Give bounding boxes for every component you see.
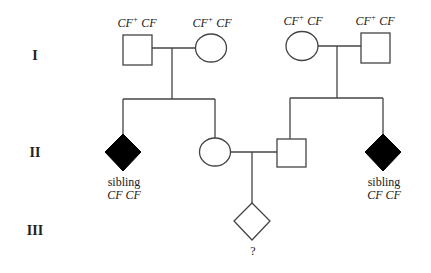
gen2-mother-circle: [200, 138, 231, 166]
gen2-left-sibling-affected-diamond: [105, 134, 141, 171]
generation-label-i: I: [15, 48, 55, 64]
label-gen3-child-unknown: ?: [250, 245, 255, 258]
gen1-right-father-square: [361, 33, 390, 63]
label-gen2-left-sibling: sibling CF CF: [107, 176, 141, 202]
gen2-father-square: [277, 139, 306, 167]
generation-label-ii: II: [15, 145, 55, 161]
sibling-label: sibling: [108, 175, 141, 189]
pedigree-chart: [0, 0, 431, 273]
gen1-left-father-square: [123, 35, 152, 65]
genotype-gen1-right-father: CF+ CF: [355, 13, 394, 29]
sibling-label: sibling: [368, 175, 401, 189]
gen2-right-sibling-affected-diamond: [365, 134, 401, 171]
gen3-child-diamond: [234, 203, 270, 240]
generation-label-iii: III: [15, 223, 55, 239]
genotype-gen1-left-father: CF+ CF: [117, 15, 156, 31]
genotype-gen1-right-mother: CF+ CF: [283, 13, 322, 29]
sibling-genotype: CF CF: [367, 189, 401, 202]
gen1-right-mother-circle: [286, 32, 318, 61]
sibling-genotype: CF CF: [107, 189, 141, 202]
label-gen2-right-sibling: sibling CF CF: [367, 176, 401, 202]
gen1-left-mother-circle: [196, 34, 227, 62]
genotype-gen1-left-mother: CF+ CF: [192, 15, 231, 31]
